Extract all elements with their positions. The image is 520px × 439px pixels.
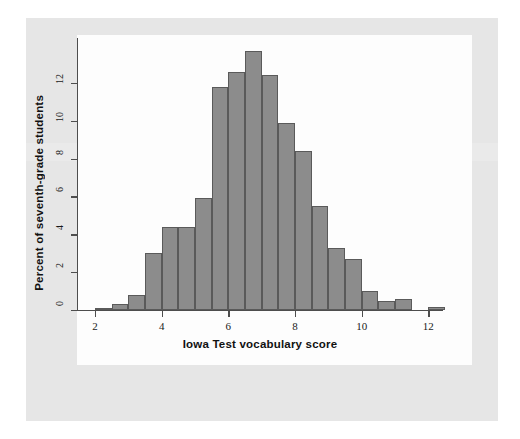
histogram-bar	[395, 299, 412, 310]
histogram-bar	[178, 227, 195, 310]
x-axis-tick-label: 2	[85, 320, 105, 332]
y-axis-tick-label: 0	[54, 301, 68, 306]
histogram-bar	[312, 206, 329, 310]
figure-page: 02468101224681012 Percent of seventh-gra…	[0, 0, 520, 439]
x-axis-tick	[162, 311, 163, 317]
y-axis-tick-label: 2	[54, 263, 68, 268]
y-axis-tick-label: 6	[54, 187, 68, 192]
histogram-bar	[162, 227, 179, 310]
histogram-bar	[228, 72, 245, 310]
histogram-bar	[128, 295, 145, 310]
x-axis-tick	[95, 311, 96, 317]
y-axis-tick	[71, 159, 77, 160]
histogram-bar	[112, 304, 129, 310]
histogram: 02468101224681012 Percent of seventh-gra…	[0, 0, 520, 439]
histogram-bar	[212, 87, 229, 310]
histogram-bar	[278, 123, 295, 310]
y-axis-tick-label: 8	[54, 150, 68, 155]
y-axis-tick-label: 12	[54, 74, 68, 84]
x-axis-tick-label: 6	[218, 320, 238, 332]
y-axis-line	[77, 38, 78, 311]
x-axis-tick	[228, 311, 229, 317]
x-axis-tick	[428, 311, 429, 317]
y-axis-title: Percent of seventh-grade students	[33, 95, 45, 291]
x-axis-tick-label: 10	[352, 320, 372, 332]
histogram-bar	[378, 301, 395, 310]
histogram-bar	[195, 198, 212, 310]
histogram-bar	[95, 308, 112, 310]
x-axis-line	[77, 310, 443, 311]
histogram-bar	[262, 75, 279, 310]
x-axis-tick-label: 8	[285, 320, 305, 332]
histogram-bar	[328, 248, 345, 310]
y-axis-tick	[71, 196, 77, 197]
x-axis-tick	[362, 311, 363, 317]
y-axis-tick-label: 4	[54, 225, 68, 230]
x-axis-tick-label: 12	[418, 320, 438, 332]
histogram-bar	[245, 51, 262, 310]
y-axis-tick	[71, 234, 77, 235]
x-axis-title: Iowa Test vocabulary score	[77, 338, 443, 350]
x-axis-tick-label: 4	[152, 320, 172, 332]
histogram-bar	[428, 307, 445, 310]
histogram-bar	[362, 291, 379, 310]
histogram-bar	[295, 151, 312, 310]
y-axis-tick	[71, 310, 77, 311]
histogram-bar	[145, 253, 162, 310]
y-axis-tick	[71, 121, 77, 122]
y-axis-tick	[71, 272, 77, 273]
x-axis-tick	[295, 311, 296, 317]
y-axis-tick	[71, 83, 77, 84]
histogram-bar	[345, 259, 362, 310]
y-axis-tick-label: 10	[54, 112, 68, 122]
